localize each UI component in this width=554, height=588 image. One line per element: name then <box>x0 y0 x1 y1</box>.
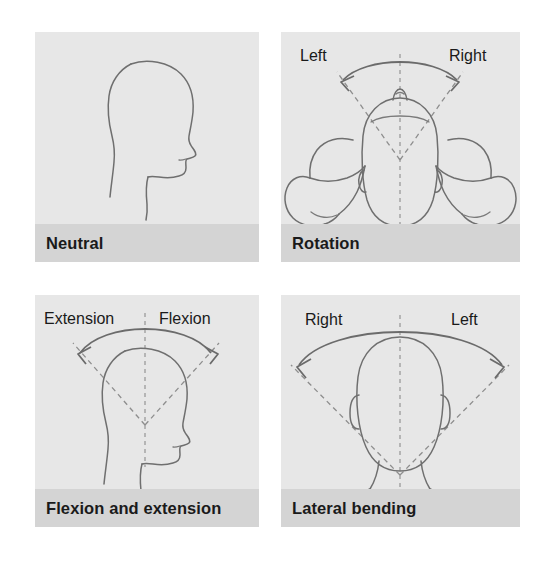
lateral-label-left: Left <box>451 311 478 329</box>
flexion-label-extension: Extension <box>44 310 114 328</box>
lateral-label-right: Right <box>305 311 342 329</box>
panel-rotation: Left Right Rotation <box>281 32 520 262</box>
panel-caption-rotation: Rotation <box>292 234 360 253</box>
rotation-label-right: Right <box>449 47 486 65</box>
panel-caption-lateral: Lateral bending <box>292 499 416 518</box>
panel-caption-flexion: Flexion and extension <box>46 499 221 518</box>
flexion-label-flexion: Flexion <box>159 310 211 328</box>
panel-caption-neutral: Neutral <box>46 234 104 253</box>
panel-lateral: Right Left Lateral bending <box>281 295 520 527</box>
panel-flexion: Extension Flexion Flexion and extension <box>35 295 259 527</box>
figure-root: Neutral <box>0 0 554 588</box>
rotation-label-left: Left <box>300 47 327 65</box>
panel-neutral: Neutral <box>35 32 259 262</box>
